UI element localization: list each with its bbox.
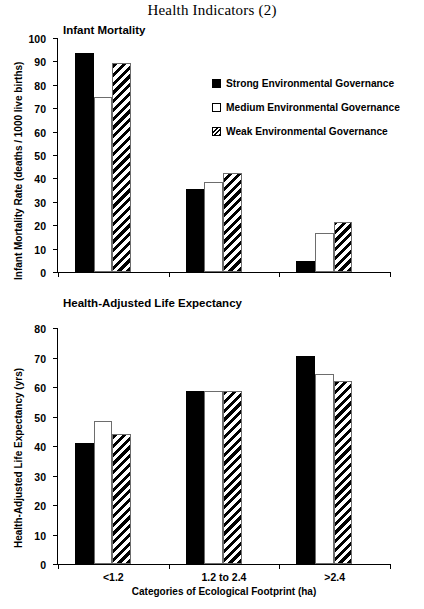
x-axis-tick xyxy=(279,272,280,277)
legend-item-weak: Weak Environmental Governance xyxy=(212,126,400,137)
x-axis-tick xyxy=(390,272,391,277)
bar-strong xyxy=(75,53,94,272)
legend-item-medium: Medium Environmental Governance xyxy=(212,102,400,113)
y-axis-tick: 100 xyxy=(53,38,58,39)
y-axis-tick: 50 xyxy=(53,417,58,418)
y-axis-tick: 40 xyxy=(53,178,58,179)
bar-medium xyxy=(204,182,223,272)
y-axis-tick: 20 xyxy=(53,225,58,226)
x-axis-label: Categories of Ecological Footprint (ha) xyxy=(58,586,390,597)
bar-medium xyxy=(315,233,334,272)
bar-medium xyxy=(204,391,223,564)
x-axis-category-label: >2.4 xyxy=(324,571,345,583)
y-axis-tick: 30 xyxy=(53,202,58,203)
chart-title-hale: Health-Adjusted Life Expectancy xyxy=(63,297,242,309)
y-axis-tick: 10 xyxy=(53,249,58,250)
x-axis-tick xyxy=(58,272,59,277)
y-axis-tick-label: 80 xyxy=(34,323,46,335)
bar-weak xyxy=(223,173,242,272)
x-axis-tick xyxy=(58,564,59,569)
legend-swatch-medium-icon xyxy=(212,103,221,112)
y-axis-label-infant-mortality: Infant Mortality Rate (deaths / 1000 liv… xyxy=(13,62,24,280)
legend-label-strong: Strong Environmental Governance xyxy=(226,78,394,89)
plot-area-infant-mortality: 0102030405060708090100 xyxy=(57,38,390,273)
y-axis-tick: 40 xyxy=(53,446,58,447)
bar-strong xyxy=(296,356,315,564)
health-indicators-figure: Health Indicators (2) Infant Mortality I… xyxy=(0,0,424,609)
bar-weak xyxy=(334,222,353,272)
bar-strong xyxy=(75,443,94,564)
y-axis-tick: 30 xyxy=(53,476,58,477)
bar-medium xyxy=(94,421,113,564)
y-axis-tick-label: 50 xyxy=(34,412,46,424)
y-axis-tick: 20 xyxy=(53,505,58,506)
y-axis-tick: 50 xyxy=(53,155,58,156)
y-axis-tick-label: 0 xyxy=(40,559,46,571)
legend-swatch-weak-icon xyxy=(212,127,221,136)
y-axis-tick: 60 xyxy=(53,387,58,388)
y-axis-tick-label: 30 xyxy=(34,197,46,209)
x-axis-category-label: <1.2 xyxy=(103,571,124,583)
y-axis-tick-label: 90 xyxy=(34,56,46,68)
x-axis-tick xyxy=(390,564,391,569)
y-axis-tick-label: 10 xyxy=(34,530,46,542)
chart-legend: Strong Environmental Governance Medium E… xyxy=(212,78,400,150)
y-axis-tick-label: 60 xyxy=(34,127,46,139)
y-axis-tick: 70 xyxy=(53,108,58,109)
y-axis-tick-label: 10 xyxy=(34,244,46,256)
bar-weak xyxy=(112,63,131,272)
x-axis-tick xyxy=(279,564,280,569)
bar-strong xyxy=(296,261,315,272)
y-axis-tick-label: 30 xyxy=(34,471,46,483)
legend-item-strong: Strong Environmental Governance xyxy=(212,78,400,89)
bar-group-container xyxy=(58,38,390,272)
x-axis-tick xyxy=(169,564,170,569)
y-axis-tick: 70 xyxy=(53,358,58,359)
y-axis-tick-label: 20 xyxy=(34,220,46,232)
bar-medium xyxy=(94,97,113,273)
legend-label-weak: Weak Environmental Governance xyxy=(226,126,388,137)
chart-title-infant-mortality: Infant Mortality xyxy=(63,24,145,36)
bar-group-container xyxy=(58,328,390,564)
y-axis-tick-label: 80 xyxy=(34,80,46,92)
bar-weak xyxy=(112,434,131,564)
bar-weak xyxy=(223,391,242,564)
y-axis-tick-label: 0 xyxy=(40,267,46,279)
legend-label-medium: Medium Environmental Governance xyxy=(226,102,400,113)
bar-strong xyxy=(186,189,205,272)
y-axis-tick-label: 70 xyxy=(34,103,46,115)
y-axis-tick-label: 40 xyxy=(34,441,46,453)
y-axis-tick: 10 xyxy=(53,535,58,536)
x-axis-category-label: 1.2 to 2.4 xyxy=(202,571,247,583)
bar-weak xyxy=(334,381,353,564)
chart-panel-hale: Health-Adjusted Life Expectancy Health-A… xyxy=(0,290,424,609)
bar-medium xyxy=(315,374,334,564)
bar-strong xyxy=(186,391,205,564)
y-axis-tick-label: 20 xyxy=(34,500,46,512)
y-axis-label-hale: Health-Adjusted Life Expectancy (yrs) xyxy=(13,368,24,548)
y-axis-tick-label: 70 xyxy=(34,353,46,365)
y-axis-tick: 80 xyxy=(53,328,58,329)
y-axis-tick-label: 40 xyxy=(34,173,46,185)
x-axis-tick xyxy=(169,272,170,277)
y-axis-tick: 80 xyxy=(53,85,58,86)
y-axis-tick-label: 50 xyxy=(34,150,46,162)
y-axis-tick-label: 100 xyxy=(28,33,46,45)
y-axis-tick-label: 60 xyxy=(34,382,46,394)
plot-area-hale: Categories of Ecological Footprint (ha) … xyxy=(57,328,390,565)
legend-swatch-strong-icon xyxy=(212,79,221,88)
y-axis-tick: 90 xyxy=(53,61,58,62)
y-axis-tick: 60 xyxy=(53,132,58,133)
